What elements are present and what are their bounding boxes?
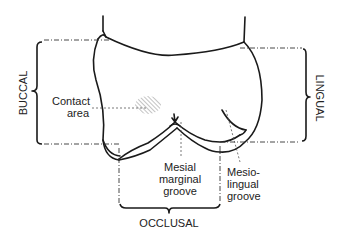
lingual-bracket bbox=[220, 48, 310, 142]
mesial-marginal-groove-line1: Mesial bbox=[164, 161, 196, 173]
buccal-label: BUCCAL bbox=[17, 71, 29, 116]
contact-area-label-line1: Contact bbox=[52, 95, 90, 107]
mesio-lingual-groove-line3: groove bbox=[227, 190, 261, 202]
tooth-diagram: BUCCAL LINGUAL OCCLUSAL Contact area Mes… bbox=[0, 0, 337, 231]
cervical-line bbox=[98, 35, 244, 55]
central-fissure bbox=[170, 114, 180, 126]
mesio-lingual-groove-callout: Mesio- lingual groove bbox=[226, 110, 261, 202]
contact-area-label-line2: area bbox=[67, 107, 90, 119]
contact-area-callout: Contact area bbox=[52, 95, 146, 119]
lingual-cusp-ridge-lower bbox=[177, 128, 220, 152]
buccal-cusp-ridge-lower bbox=[119, 128, 177, 160]
lingual-inner-contour-2 bbox=[240, 130, 246, 135]
mesial-marginal-groove-callout: Mesial marginal groove bbox=[159, 122, 201, 197]
contact-area-hatch bbox=[135, 96, 161, 114]
mesial-marginal-groove-line3: groove bbox=[163, 185, 197, 197]
mesio-lingual-groove-line1: Mesio- bbox=[227, 166, 260, 178]
lingual-label: LINGUAL bbox=[314, 74, 326, 121]
buccal-cusp-ridge-upper bbox=[119, 122, 175, 159]
buccal-surface bbox=[93, 31, 119, 160]
occlusal-label: OCCLUSAL bbox=[139, 217, 198, 229]
lingual-root-stub bbox=[244, 17, 245, 42]
lingual-surface bbox=[220, 42, 262, 152]
tooth-outline bbox=[93, 16, 262, 160]
buccal-bracket bbox=[32, 40, 119, 144]
lingual-inner-contour bbox=[222, 110, 246, 130]
mesial-marginal-groove-line2: marginal bbox=[159, 173, 201, 185]
lingual-cusp-ridge-upper bbox=[175, 122, 240, 142]
mesio-lingual-groove-line2: lingual bbox=[227, 178, 259, 190]
